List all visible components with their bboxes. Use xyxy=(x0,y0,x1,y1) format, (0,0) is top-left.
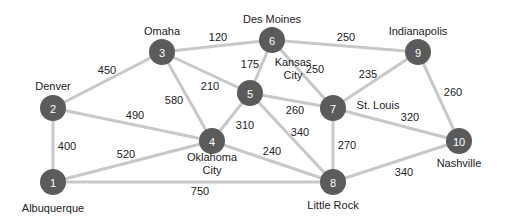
node-8: 8 xyxy=(320,169,346,195)
edge-weight-label: 490 xyxy=(126,109,144,121)
edge-weight-label: 260 xyxy=(444,86,462,98)
node-3: 3 xyxy=(149,39,175,65)
edge-weight-label: 750 xyxy=(191,185,209,197)
edge-weight-label: 400 xyxy=(58,140,76,152)
node-7: 7 xyxy=(320,95,346,121)
edge-weight-label: 260 xyxy=(286,104,304,116)
weights-layer: 4005207504504905802101203102401752603402… xyxy=(58,31,462,197)
edge-weight-label: 250 xyxy=(337,31,355,43)
city-graph-diagram: 4005207504504905802101203102401752603402… xyxy=(0,0,509,222)
city-label: Oklahoma xyxy=(187,151,238,163)
node-number: 7 xyxy=(330,103,336,115)
edge-weight-label: 210 xyxy=(201,80,219,92)
city-label: Denver xyxy=(35,80,71,92)
node-number: 6 xyxy=(269,35,275,47)
city-label: Omaha xyxy=(144,25,181,37)
node-5: 5 xyxy=(237,80,263,106)
node-number: 10 xyxy=(453,136,465,148)
city-label: Nashville xyxy=(437,157,482,169)
city-label: Little Rock xyxy=(307,199,359,211)
edge-weight-label: 320 xyxy=(401,111,419,123)
city-label: Albuquerque xyxy=(22,202,84,214)
city-label: Kansas xyxy=(275,56,312,68)
edge-weight-label: 520 xyxy=(117,148,135,160)
node-1: 1 xyxy=(40,169,66,195)
edge-weight-label: 175 xyxy=(241,58,259,70)
edge-weight-label: 235 xyxy=(359,68,377,80)
node-9: 9 xyxy=(405,39,431,65)
city-label: St. Louis xyxy=(357,99,400,111)
node-10: 10 xyxy=(446,128,472,154)
city-label: Des Moines xyxy=(243,13,302,25)
node-2: 2 xyxy=(40,95,66,121)
node-number: 1 xyxy=(50,177,56,189)
edge-weight-label: 340 xyxy=(395,166,413,178)
city-label: City xyxy=(284,69,303,81)
city-label: City xyxy=(203,164,222,176)
edge-weight-label: 270 xyxy=(338,139,356,151)
node-number: 5 xyxy=(247,88,253,100)
edge-weight-label: 580 xyxy=(165,94,183,106)
node-number: 8 xyxy=(330,177,336,189)
node-6: 6 xyxy=(259,27,285,53)
edge-weight-label: 120 xyxy=(209,31,227,43)
node-number: 4 xyxy=(209,136,215,148)
node-number: 9 xyxy=(415,47,421,59)
edge-weight-label: 340 xyxy=(291,126,309,138)
edge-weight-label: 450 xyxy=(98,64,116,76)
edge-weight-label: 240 xyxy=(263,145,281,157)
edge-weight-label: 310 xyxy=(236,119,254,131)
edge-7-10 xyxy=(333,108,459,141)
city-label: Indianapolis xyxy=(389,25,448,37)
node-number: 2 xyxy=(50,103,56,115)
node-number: 3 xyxy=(159,47,165,59)
